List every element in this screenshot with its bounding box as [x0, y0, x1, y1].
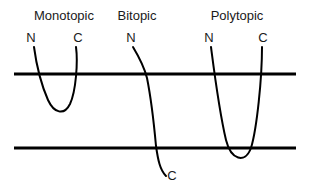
c-terminus-label-bitopic: C: [167, 168, 176, 183]
panel-monotopic: Monotopic N C: [26, 8, 94, 112]
n-terminus-label-polytopic: N: [204, 30, 213, 45]
chain-path-bitopic: [133, 47, 166, 176]
panel-bitopic: Bitopic N C: [117, 8, 176, 183]
chain-path-monotopic: [34, 47, 77, 112]
n-terminus-label-monotopic: N: [26, 30, 35, 45]
membrane-topology-diagram: Monotopic N C Bitopic N C Polytopic N C: [0, 0, 309, 191]
c-terminus-label-polytopic: C: [258, 30, 267, 45]
c-terminus-label-monotopic: C: [73, 30, 82, 45]
chain-path-polytopic: [211, 47, 262, 158]
panel-polytopic: Polytopic N C: [204, 8, 267, 158]
n-terminus-label-bitopic: N: [126, 30, 135, 45]
panel-title-polytopic: Polytopic: [211, 8, 264, 23]
panel-title-bitopic: Bitopic: [117, 8, 157, 23]
panel-title-monotopic: Monotopic: [34, 8, 94, 23]
diagram-canvas: Monotopic N C Bitopic N C Polytopic N C: [0, 0, 309, 191]
